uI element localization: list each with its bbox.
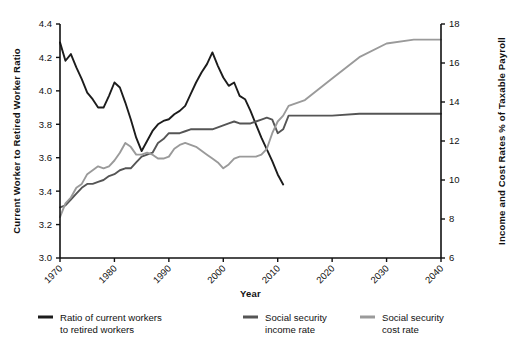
- left-axis-tick-label: 3.8: [39, 119, 52, 130]
- left-axis-tick-label: 3.0: [39, 252, 52, 263]
- legend-label-1-line1: Social security: [265, 312, 327, 323]
- left-axis-tick-label: 4.2: [39, 52, 52, 63]
- legend-label-0-line2: to retired workers: [60, 324, 134, 335]
- right-axis-tick-label: 12: [449, 135, 460, 146]
- legend-label-2-line2: cost rate: [382, 324, 419, 335]
- right-axis-tick-label: 14: [449, 96, 460, 107]
- left-axis-tick-label: 3.6: [39, 152, 52, 163]
- right-axis-tick-label: 18: [449, 18, 460, 29]
- right-axis-tick-label: 8: [449, 213, 454, 224]
- right-axis-tick-label: 16: [449, 57, 460, 68]
- legend-label-1-line2: income rate: [265, 324, 315, 335]
- legend-label-2-line1: Social security: [382, 312, 444, 323]
- chart-background: [0, 0, 526, 351]
- left-axis-tick-label: 3.2: [39, 219, 52, 230]
- right-axis-title: Income and Cost Rates % of Taxable Payro…: [496, 37, 507, 245]
- left-axis-tick-label: 4.0: [39, 85, 52, 96]
- right-axis-tick-label: 10: [449, 174, 460, 185]
- left-axis-tick-label: 3.4: [39, 186, 52, 197]
- right-axis-tick-label: 6: [449, 252, 454, 263]
- x-axis-title: Year: [240, 288, 261, 299]
- worker-ratio-and-social-security-rates-chart: 3.03.23.43.63.84.04.24.46810121416181970…: [0, 0, 526, 351]
- left-axis-title: Current Worker to Retired Worker Ratio: [11, 48, 22, 234]
- left-axis-tick-label: 4.4: [39, 18, 52, 29]
- legend-label-0-line1: Ratio of current workers: [60, 312, 162, 323]
